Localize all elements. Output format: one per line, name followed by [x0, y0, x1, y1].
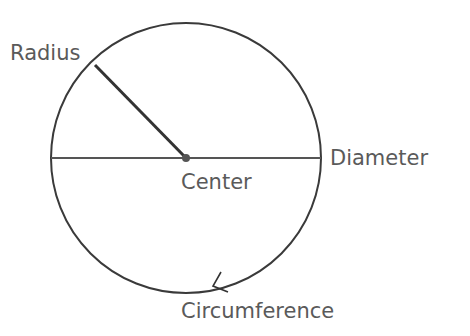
center-point [182, 154, 190, 162]
circumference-label: Circumference [181, 301, 334, 322]
radius-line [95, 65, 186, 158]
center-label: Center [181, 172, 252, 193]
diameter-label: Diameter [330, 148, 428, 169]
radius-label: Radius [10, 43, 80, 64]
circle-diagram: Radius Center Diameter Circumference [0, 0, 470, 336]
